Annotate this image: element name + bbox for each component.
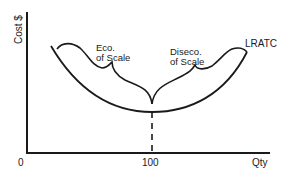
x-axis-label: Qty xyxy=(252,157,268,168)
y-axis-label: Cost $ xyxy=(13,15,24,44)
diseconomies-label-line2: of Scale xyxy=(170,56,204,67)
origin-label: 0 xyxy=(18,157,24,168)
economies-label-line2: of Scale xyxy=(96,52,130,63)
lratc-diagram: Cost $ 0 100 Qty Eco. of Scale Diseco. o… xyxy=(0,0,293,181)
lratc-curve xyxy=(51,46,247,112)
x-tick-label-100: 100 xyxy=(142,157,159,168)
lratc-label: LRATC xyxy=(245,38,277,49)
